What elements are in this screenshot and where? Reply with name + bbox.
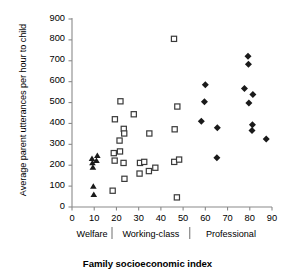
data-point-square xyxy=(137,171,142,176)
data-point-diamond xyxy=(245,61,252,68)
data-point-square xyxy=(122,131,127,136)
data-point-diamond xyxy=(214,124,221,131)
x-tick-label: 80 xyxy=(238,213,262,223)
data-point-square xyxy=(172,127,177,132)
data-point-square xyxy=(118,99,123,104)
x-axis-title: Family socioeconomic index xyxy=(0,258,295,269)
group-label-professional: Professional xyxy=(206,229,256,239)
data-point-square xyxy=(171,36,176,41)
y-tick-label: 300 xyxy=(39,138,65,148)
data-point-square xyxy=(177,157,182,162)
x-tick-label: 20 xyxy=(104,213,128,223)
data-point-square xyxy=(153,165,158,170)
data-point-diamond xyxy=(202,81,209,88)
y-tick-label: 500 xyxy=(39,96,65,106)
y-tick-label: 900 xyxy=(39,13,65,23)
data-point-square xyxy=(175,104,180,109)
data-point-square xyxy=(131,112,136,117)
series-working-class xyxy=(110,36,182,200)
data-point-square xyxy=(110,188,115,193)
x-tick-label: 60 xyxy=(193,213,217,223)
axis-layer xyxy=(69,18,273,211)
data-point-diamond xyxy=(245,99,252,106)
data-point-square xyxy=(111,151,116,156)
y-tick-label: 400 xyxy=(39,117,65,127)
data-point-square xyxy=(146,168,151,173)
data-point-diamond xyxy=(198,118,205,125)
data-point-square xyxy=(174,195,179,200)
group-label-welfare: Welfare xyxy=(77,229,108,239)
data-point-diamond xyxy=(249,91,256,98)
data-point-square xyxy=(117,138,122,143)
y-tick-label: 200 xyxy=(39,159,65,169)
x-tick-label: 30 xyxy=(127,213,151,223)
data-point-diamond xyxy=(249,127,256,134)
y-tick-label: 700 xyxy=(39,54,65,64)
y-tick-label: 100 xyxy=(39,180,65,190)
x-tick-label: 90 xyxy=(260,213,284,223)
data-point-square xyxy=(112,158,117,163)
data-point-square xyxy=(121,160,126,165)
data-point-triangle xyxy=(89,155,96,161)
group-label-working-class: Working-class xyxy=(122,229,179,239)
data-point-diamond xyxy=(263,136,270,143)
x-tick-label: 70 xyxy=(216,213,240,223)
data-point-triangle xyxy=(94,152,101,158)
data-point-square xyxy=(147,131,152,136)
data-point-diamond xyxy=(245,53,252,60)
scatter-chart: Average parent utterances per hour to ch… xyxy=(0,0,295,277)
x-tick-label: 10 xyxy=(82,213,106,223)
x-tick-label: 40 xyxy=(149,213,173,223)
y-tick-label: 800 xyxy=(39,33,65,43)
data-point-diamond xyxy=(241,85,248,92)
data-point-diamond xyxy=(201,98,208,105)
data-point-square xyxy=(117,149,122,154)
marker-layer xyxy=(89,36,270,200)
y-tick-label: 600 xyxy=(39,75,65,85)
data-point-diamond xyxy=(249,121,256,128)
data-point-triangle xyxy=(90,192,97,198)
data-point-diamond xyxy=(213,154,220,161)
data-point-square xyxy=(112,117,117,122)
series-professional xyxy=(198,53,270,162)
series-welfare xyxy=(89,152,101,197)
x-tick-label: 0 xyxy=(60,213,84,223)
x-tick-label: 50 xyxy=(171,213,195,223)
data-point-square xyxy=(142,159,147,164)
data-point-square xyxy=(122,176,127,181)
data-point-triangle xyxy=(90,183,97,189)
y-tick-label: 0 xyxy=(39,201,65,211)
